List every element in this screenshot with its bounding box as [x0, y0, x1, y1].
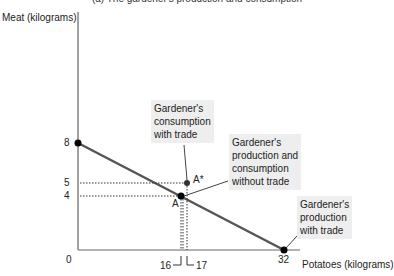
point-a-label: A	[172, 197, 179, 210]
ann3-line2: production	[300, 211, 349, 224]
point-y-intercept	[75, 140, 82, 147]
x-axis-label: Potatoes (kilograms)	[302, 258, 394, 271]
x-tick-17: 17	[196, 260, 207, 271]
tick-leader-17	[187, 256, 194, 265]
pointer-ann3	[286, 236, 297, 248]
pointer-ann1	[184, 145, 187, 180]
ann2-line3: consumption	[232, 162, 298, 175]
tick-leader-16	[173, 256, 181, 265]
pointer-ann2	[184, 181, 228, 196]
y-axis-label: Meat (kilograms)	[2, 11, 76, 24]
ann3-line1: Gardener's	[300, 198, 349, 211]
annotation-without-trade: Gardener's production and consumption wi…	[229, 134, 301, 190]
annotation-production-with-trade: Gardener's production with trade	[297, 196, 352, 239]
point-x-intercept	[281, 247, 288, 254]
y-tick-8: 8	[64, 137, 70, 148]
ann1-line2: consumption	[154, 115, 211, 128]
annotation-consumption-with-trade: Gardener's consumption with trade	[151, 100, 214, 143]
ann1-line3: with trade	[154, 128, 211, 141]
point-a-star-label: A*	[193, 173, 204, 186]
ann3-line3: with trade	[300, 224, 349, 237]
x-tick-32: 32	[278, 254, 289, 265]
ann2-line4: without trade	[232, 175, 298, 188]
x-tick-16: 16	[160, 260, 171, 271]
ann2-line2: production and	[232, 149, 298, 162]
ann1-line1: Gardener's	[154, 102, 211, 115]
origin-label: 0	[66, 254, 72, 265]
y-tick-5: 5	[64, 177, 70, 188]
y-tick-4: 4	[64, 190, 70, 201]
point-a-star	[184, 180, 190, 186]
ann2-line1: Gardener's	[232, 136, 298, 149]
